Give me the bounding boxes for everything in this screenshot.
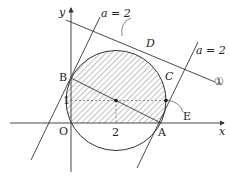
x-tick-2: 2: [112, 126, 119, 139]
label-D: D: [145, 37, 155, 50]
center-point: [114, 99, 118, 103]
x-axis-label: x: [219, 125, 226, 138]
label-a2-left: a = 2: [101, 7, 131, 20]
label-a2-right: a = 2: [196, 44, 226, 57]
coordinate-diagram: y x O 2 1 B A C D E a = 2 a = 2 ①: [0, 0, 230, 182]
origin-label: O: [59, 125, 68, 138]
label-E: E: [183, 110, 191, 123]
leader-D: [122, 18, 131, 36]
label-B: B: [59, 71, 67, 84]
label-line-1: ①: [214, 75, 224, 88]
label-C: C: [165, 70, 174, 83]
point-E: [164, 99, 168, 103]
y-tick-1: 1: [63, 94, 70, 107]
label-A: A: [157, 126, 167, 139]
y-axis-label: y: [58, 6, 66, 19]
